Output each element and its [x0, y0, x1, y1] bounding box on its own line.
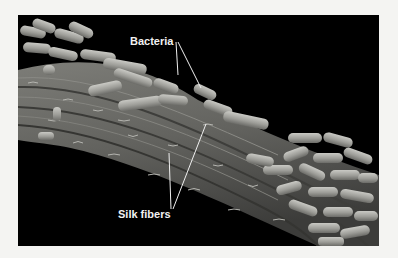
silk-fibers-label: Silk fibers [118, 208, 171, 220]
micrograph-graphic [18, 15, 379, 246]
micrograph-image: Bacteria Silk fibers [18, 15, 379, 246]
bacteria-label: Bacteria [130, 35, 173, 47]
